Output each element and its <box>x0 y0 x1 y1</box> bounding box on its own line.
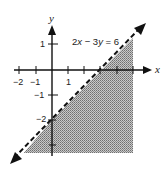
tick-label-x-neg1: −1 <box>30 77 40 87</box>
y-axis-arrow-icon <box>48 25 56 35</box>
tick-label-x-1: 1 <box>66 77 71 87</box>
inequality-graph: x −2 −1 1 y 1 −1 −2 2x − 3y = 6 <box>0 0 166 172</box>
tick-label-x-neg2: −2 <box>13 77 23 87</box>
line-arrow-lower-icon <box>10 152 22 164</box>
y-axis-label: y <box>48 12 54 24</box>
tick-label-y-neg2: −2 <box>36 114 46 124</box>
tick-label-y-1: 1 <box>40 39 45 49</box>
x-axis-arrow-icon <box>143 66 152 74</box>
equation-label: 2x − 3y = 6 <box>72 36 119 47</box>
line-arrow-upper-icon <box>134 23 146 35</box>
shaded-region-lower-left <box>24 120 52 153</box>
x-axis-label: x <box>154 63 160 75</box>
tick-label-y-neg1: −1 <box>34 90 44 100</box>
